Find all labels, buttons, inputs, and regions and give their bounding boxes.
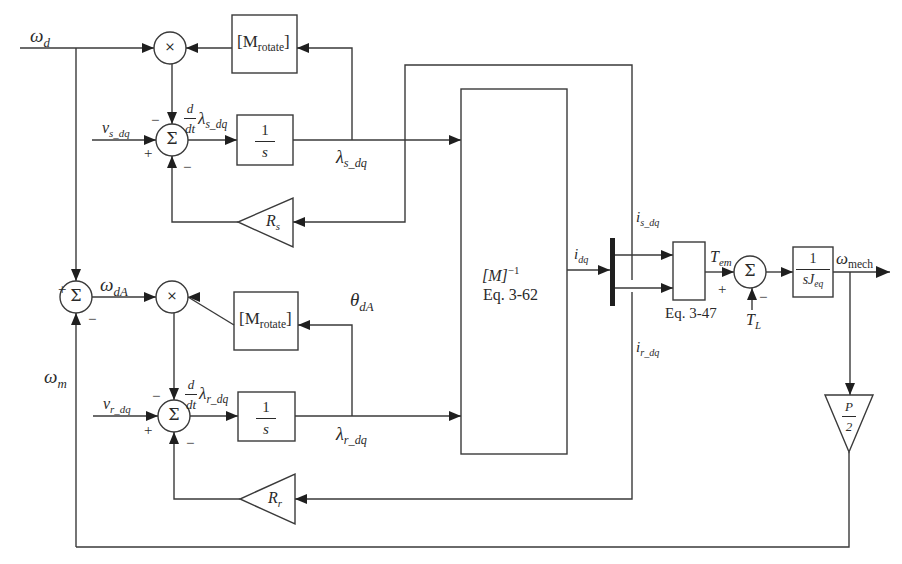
arrow-icon [169, 432, 179, 444]
label-gain-rr: Rr [268, 490, 282, 509]
label-lambda-s-derivative: λs_dq [198, 110, 227, 131]
label-inverse-m: [M]−1 [482, 265, 519, 284]
label-eq-3-62: Eq. 3-62 [483, 287, 538, 303]
label-lambda-s-dq: λs_dq [336, 148, 367, 170]
minus-sign: − [183, 160, 191, 175]
minus-sign: − [152, 389, 160, 404]
label-t-em: Tem [710, 249, 732, 268]
block-diagram-canvas [0, 0, 902, 564]
arrow-icon [781, 267, 793, 277]
minus-sign: − [88, 312, 96, 327]
label-eq-3-47: Eq. 3-47 [665, 306, 717, 321]
arrow-icon [186, 43, 198, 53]
arrow-icon [71, 269, 81, 281]
arrow-icon [293, 217, 305, 227]
label-lambda-r-dq: λr_dq [336, 425, 367, 447]
sigma-icon: Σ [165, 407, 183, 423]
plus-sign: + [144, 146, 152, 161]
label-ddt-r: ddt [185, 378, 197, 411]
label-i-dq: idq [574, 247, 588, 265]
arrow-icon [298, 320, 310, 330]
label-theta-dA: θdA [350, 290, 374, 313]
label-omega-d: ωd [30, 26, 50, 49]
arrow-icon [876, 266, 890, 278]
multiply-icon: × [164, 289, 180, 302]
label-pole-gain: P2 [842, 400, 856, 433]
plus-sign: + [144, 423, 152, 438]
arrow-icon [722, 267, 734, 277]
arrow-icon [167, 112, 177, 124]
label-gain-rs: Rs [266, 213, 280, 232]
label-omega-mech: ωmech [836, 250, 873, 271]
minus-sign: − [186, 436, 194, 451]
label-integrator-s: 1s [255, 123, 275, 160]
arrow-icon [144, 135, 156, 145]
arrow-icon [169, 388, 179, 400]
arrow-icon [661, 283, 673, 293]
arrow-icon [449, 135, 461, 145]
label-t-l: TL [746, 312, 761, 331]
label-mech-integrator: 1sJeq [796, 252, 830, 290]
label-omega-dA: ωdA [100, 275, 128, 298]
arrow-icon [146, 411, 158, 421]
torque-eq-block [673, 242, 705, 300]
plus-sign: + [718, 282, 726, 297]
plus-sign: + [58, 282, 66, 297]
label-integrator-r: 1s [256, 400, 276, 437]
arrow-icon [297, 43, 309, 53]
minus-sign: − [759, 290, 767, 305]
arrow-icon [142, 43, 154, 53]
label-v-s-dq: vs_dq [102, 120, 130, 139]
arrow-icon [747, 288, 757, 300]
sigma-icon: Σ [67, 288, 85, 304]
arrow-icon [295, 494, 307, 504]
minus-sign: − [151, 113, 159, 128]
multiply-icon: × [162, 40, 178, 53]
arrow-icon [226, 411, 238, 421]
label-m-rotate-top: [Mrotate] [237, 33, 290, 54]
sigma-icon: Σ [163, 131, 181, 147]
sigma-icon: Σ [741, 263, 759, 279]
arrow-icon [845, 383, 855, 395]
label-i-r-dq: ir_dq [636, 340, 659, 358]
label-v-r-dq: vr_dq [103, 396, 131, 415]
label-m-rotate-bottom: [Mrotate] [239, 310, 292, 331]
label-ddt-s: ddt [184, 102, 196, 135]
arrow-icon [661, 250, 673, 260]
demux-bar [610, 238, 615, 306]
label-omega-m: ωm [44, 367, 67, 390]
arrow-icon [225, 135, 237, 145]
arrow-icon [598, 265, 610, 275]
arrow-icon [71, 313, 81, 325]
label-lambda-r-derivative: λr_dq [199, 385, 228, 406]
label-i-s-dq: is_dq [636, 210, 659, 228]
arrow-icon [167, 156, 177, 168]
arrow-icon [144, 292, 156, 302]
arrow-icon [449, 411, 461, 421]
